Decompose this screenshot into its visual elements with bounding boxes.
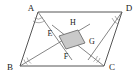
inner-rectangle-efgh [59, 30, 85, 49]
label-f: F [64, 52, 69, 61]
label-a: A [28, 3, 35, 13]
label-g: G [89, 37, 95, 46]
geometry-figure: A D B C E H F G [0, 0, 139, 77]
label-e: E [48, 29, 53, 38]
label-b: B [7, 62, 13, 72]
label-c: C [109, 62, 115, 72]
geometry-canvas: A D B C E H F G [0, 0, 139, 77]
label-d: D [126, 3, 133, 13]
label-h: H [70, 18, 76, 27]
